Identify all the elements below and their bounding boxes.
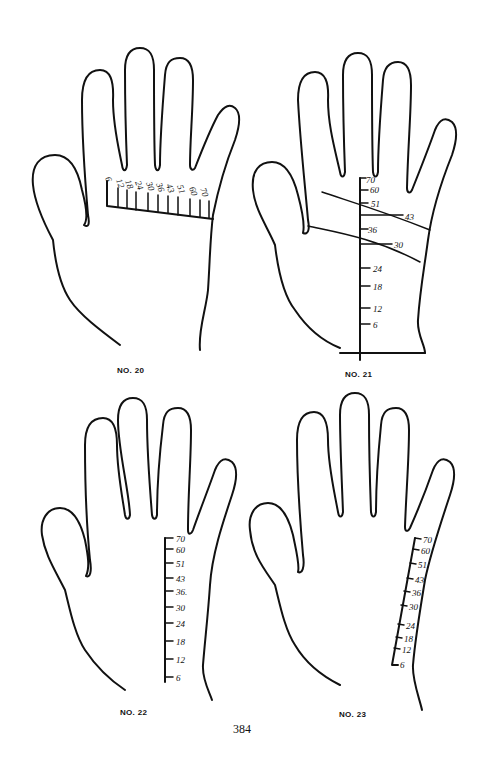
svg-text:70: 70 <box>423 535 433 545</box>
svg-text:43: 43 <box>415 575 425 585</box>
svg-text:30: 30 <box>393 240 404 250</box>
svg-text:24: 24 <box>176 619 186 629</box>
hand-22-outline <box>42 398 236 700</box>
svg-text:51: 51 <box>176 559 185 569</box>
figure-caption-23: NO. 23 <box>339 710 366 719</box>
hand-illustrations: 6 12 18 24 30 36 43 51 60 70 70 60 51 43 <box>0 0 489 757</box>
svg-text:36: 36 <box>367 225 378 235</box>
svg-text:51: 51 <box>418 560 427 570</box>
svg-text:12: 12 <box>176 655 186 665</box>
svg-text:43: 43 <box>176 574 186 584</box>
svg-text:6: 6 <box>176 673 181 683</box>
svg-text:18: 18 <box>404 634 414 644</box>
svg-text:36.: 36. <box>175 587 187 597</box>
svg-text:70: 70 <box>198 186 211 198</box>
book-page: 6 12 18 24 30 36 43 51 60 70 70 60 51 43 <box>0 0 489 757</box>
hand-22-labels: 70 60 51 43 36. 30 24 18 12 6 <box>175 534 187 683</box>
page-number: 384 <box>233 722 251 737</box>
svg-text:60: 60 <box>421 546 431 556</box>
svg-text:12: 12 <box>402 645 412 655</box>
svg-text:6: 6 <box>400 660 405 670</box>
svg-text:30: 30 <box>175 603 186 613</box>
svg-text:51: 51 <box>175 183 187 195</box>
svg-text:18: 18 <box>176 637 186 647</box>
figure-caption-22: NO. 22 <box>120 708 147 717</box>
hand-21-labels: 70 60 51 43 36 30 24 18 12 6 <box>366 175 415 330</box>
hand-21-scale <box>308 178 430 360</box>
svg-text:70: 70 <box>176 534 186 544</box>
hand-23-labels: 70 60 51 43 36 30 24 18 12 6 <box>400 535 433 670</box>
svg-text:60: 60 <box>187 185 200 197</box>
svg-text:24: 24 <box>133 179 146 191</box>
figure-caption-21: NO. 21 <box>345 370 372 379</box>
svg-text:24: 24 <box>373 264 383 274</box>
svg-text:36: 36 <box>411 588 422 598</box>
svg-text:18: 18 <box>373 282 383 292</box>
svg-text:51: 51 <box>371 199 380 209</box>
hand-20-labels: 6 12 18 24 30 36 43 51 60 70 <box>103 175 211 198</box>
svg-text:43: 43 <box>164 182 177 194</box>
svg-text:60: 60 <box>370 185 380 195</box>
svg-text:6: 6 <box>103 175 114 183</box>
svg-text:43: 43 <box>405 212 415 222</box>
hand-22-scale <box>165 538 173 682</box>
figure-caption-20: NO. 20 <box>117 366 144 375</box>
svg-text:70: 70 <box>366 175 376 185</box>
svg-text:12: 12 <box>373 304 383 314</box>
svg-text:30: 30 <box>408 602 419 612</box>
svg-text:24: 24 <box>406 621 416 631</box>
svg-text:6: 6 <box>373 320 378 330</box>
svg-text:60: 60 <box>176 545 186 555</box>
